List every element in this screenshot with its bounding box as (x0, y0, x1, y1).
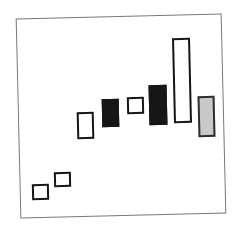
figure-canvas (0, 0, 241, 237)
bar-1-small-outline (32, 184, 49, 200)
bar-5-small-outline (127, 97, 144, 114)
bar-8-gray (198, 96, 216, 137)
bar-3-outline (77, 112, 95, 139)
bar-7-tall-outline (172, 38, 192, 123)
bar-2-small-outline (54, 172, 71, 187)
bar-6-filled (149, 85, 168, 125)
bar-4-filled (102, 99, 120, 127)
